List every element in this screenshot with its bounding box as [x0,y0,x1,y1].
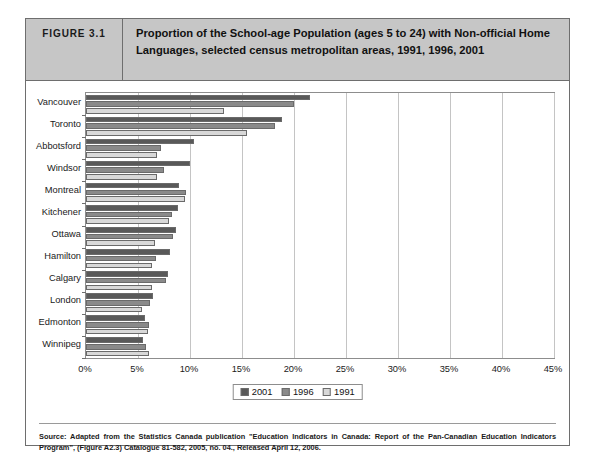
figure-header: FIGURE 3.1 Proportion of the School-age … [26,19,569,81]
category-label-winnipeg: Winnipeg [42,339,81,349]
bar-group [86,115,554,137]
category-label-abbotsford: Abbotsford [36,141,81,151]
x-tick-label: 15% [232,364,251,374]
legend-swatch-2001 [240,388,248,396]
bar-edmonton-2001 [86,315,145,321]
bar-group [86,159,554,181]
bar-group [86,292,554,314]
bar-london-1991 [86,307,142,313]
x-tick-label: 10% [180,364,199,374]
bar-group [86,93,554,115]
x-tick-label: 25% [336,364,355,374]
bar-montreal-1991 [86,196,185,202]
bar-vancouver-2001 [86,95,310,101]
bar-calgary-1991 [86,285,152,291]
bar-group [86,181,554,203]
bar-edmonton-1996 [86,322,149,328]
legend-swatch-1996 [281,388,289,396]
figure-container: FIGURE 3.1 Proportion of the School-age … [25,18,570,446]
x-tick-label: 20% [284,364,303,374]
bar-group [86,336,554,358]
category-label-vancouver: Vancouver [37,97,81,107]
figure-number-cell: FIGURE 3.1 [26,19,123,80]
bar-group [86,270,554,292]
bar-london-2001 [86,293,153,299]
x-tick-label: 5% [130,364,143,374]
category-axis-labels: VancouverTorontoAbbotsfordWindsorMontrea… [26,92,81,359]
bar-montreal-2001 [86,183,179,189]
source-block: Source: Adapted from the Statistics Cana… [39,423,556,453]
bar-kitchener-1991 [86,218,169,224]
category-label-calgary: Calgary [49,273,81,283]
source-note: Source: Adapted from the Statistics Cana… [39,431,556,453]
category-label-windsor: Windsor [47,163,81,173]
figure-title: Proportion of the School-age Population … [136,25,559,58]
bar-calgary-1996 [86,278,166,284]
figure-number-label: FIGURE 3.1 [42,28,105,39]
bar-hamilton-2001 [86,249,170,255]
x-tick-label: 45% [544,364,563,374]
x-tick-label: 30% [388,364,407,374]
chart-area: VancouverTorontoAbbotsfordWindsorMontrea… [26,81,569,413]
category-label-hamilton: Hamilton [44,251,81,261]
category-label-montreal: Montreal [45,185,81,195]
x-tick-label: 40% [492,364,511,374]
category-label-edmonton: Edmonton [39,317,81,327]
legend-label-2001: 2001 [252,387,273,397]
bar-ottawa-1996 [86,234,173,240]
legend-item-2001: 2001 [240,387,272,397]
legend-label-1991: 1991 [334,387,355,397]
bar-ottawa-1991 [86,240,155,246]
bar-hamilton-1996 [86,256,156,262]
bar-hamilton-1991 [86,263,152,269]
bar-montreal-1996 [86,190,186,196]
bar-winnipeg-1991 [86,351,149,357]
bar-abbotsford-1996 [86,145,161,151]
bar-group [86,137,554,159]
category-label-london: London [50,295,81,305]
bar-group [86,248,554,270]
bar-abbotsford-1991 [86,152,157,158]
bar-edmonton-1991 [86,329,148,335]
bar-group [86,314,554,336]
bar-toronto-1996 [86,123,275,129]
category-label-toronto: Toronto [50,119,81,129]
legend-item-1991: 1991 [323,387,355,397]
bar-windsor-2001 [86,161,190,167]
bar-toronto-1991 [86,130,247,136]
bar-winnipeg-2001 [86,337,143,343]
bar-toronto-2001 [86,117,282,123]
x-tick-label: 0% [78,364,91,374]
bar-ottawa-2001 [86,227,176,233]
legend-label-1996: 1996 [293,387,314,397]
bar-windsor-1996 [86,167,164,173]
bar-calgary-2001 [86,271,168,277]
chart-legend: 200119961991 [232,384,363,400]
category-tick [82,358,86,359]
x-tick-label: 35% [440,364,459,374]
figure-title-cell: Proportion of the School-age Population … [123,19,569,80]
category-label-kitchener: Kitchener [42,207,81,217]
bar-group [86,203,554,225]
category-label-ottawa: Ottawa [52,229,81,239]
legend-swatch-1991 [323,388,331,396]
bar-group [86,226,554,248]
legend-item-1996: 1996 [281,387,313,397]
bar-winnipeg-1996 [86,344,146,350]
bar-vancouver-1991 [86,108,224,114]
bar-london-1996 [86,300,150,306]
bar-kitchener-1996 [86,212,172,218]
bar-vancouver-1996 [86,101,294,107]
bar-abbotsford-2001 [86,139,194,145]
plot-frame [85,92,555,359]
bar-windsor-1991 [86,174,157,180]
bar-kitchener-2001 [86,205,178,211]
gridline [554,93,555,358]
